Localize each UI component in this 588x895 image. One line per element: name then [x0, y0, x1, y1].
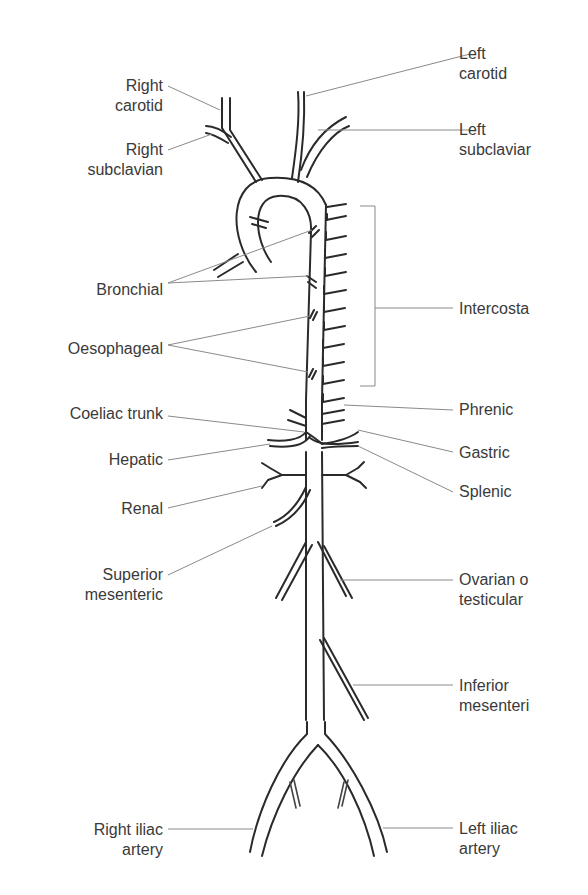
label-inferior-mesenteric: Inferiormesenteri [459, 676, 529, 716]
label-splenic: Splenic [459, 482, 511, 502]
label-oesophageal: Oesophageal [68, 339, 163, 359]
label-hepatic: Hepatic [109, 450, 163, 470]
label-phrenic: Phrenic [459, 400, 513, 420]
aorta-diagram: Rightcarotid Rightsubclavian Bronchial O… [0, 0, 588, 895]
label-superior-mesenteric: Superiormesenteric [85, 565, 163, 605]
label-right-subclavian: Rightsubclavian [87, 140, 163, 180]
thoracic-aorta [306, 204, 346, 440]
label-intercostal: Intercosta [459, 299, 529, 319]
label-bronchial: Bronchial [96, 280, 163, 300]
label-left-carotid: Leftcarotid [459, 44, 507, 84]
label-right-iliac-artery: Right iliacartery [94, 820, 163, 860]
label-renal: Renal [121, 499, 163, 519]
iliac-bifurcation [250, 722, 387, 856]
abdominal-branches [262, 410, 368, 720]
label-left-iliac-artery: Left iliacartery [459, 819, 518, 859]
label-coeliac-trunk: Coeliac trunk [70, 404, 163, 424]
label-gastric: Gastric [459, 443, 510, 463]
label-ovarian-or-testicular: Ovarian otesticular [459, 570, 528, 610]
neck-branches [206, 92, 349, 182]
label-right-carotid: Rightcarotid [115, 76, 163, 116]
label-left-subclavian: Leftsubclaviar [459, 120, 531, 160]
